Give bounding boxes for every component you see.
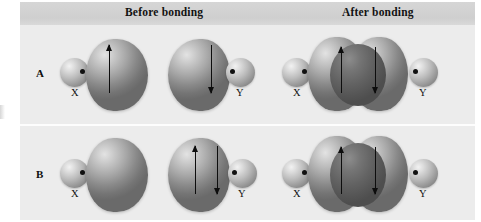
electron-dot-x-bonded [302, 69, 307, 74]
cropped-figure-number-artifact [0, 105, 5, 119]
row-label-b: B [36, 168, 43, 180]
electron-dot-x [80, 170, 85, 175]
atom-label-x-bonded: X [293, 87, 301, 98]
atom-label-y-bonded: Y [419, 188, 427, 199]
electron-dot-y-bonded [413, 69, 418, 74]
atom-label-y: Y [238, 188, 246, 199]
spin-arrow-down-y [206, 45, 216, 93]
diagram-row-b: B X Y [20, 126, 475, 220]
spin-arrow-up-y [190, 146, 200, 194]
spin-arrow-down-bond [370, 147, 380, 194]
electron-dot-y [230, 69, 235, 74]
atom-label-x: X [71, 87, 79, 98]
diagram-row-a: A X Y [20, 25, 475, 124]
column-header-after-bonding: After bonding [342, 6, 414, 18]
orbital-bonding-figure: Before bonding After bonding A X [0, 0, 481, 222]
orbital-lobe-x [86, 39, 148, 111]
electron-dot-x-bonded [302, 170, 307, 175]
spin-arrow-up-bond [336, 47, 346, 93]
orbital-lobe-x-empty [86, 138, 148, 212]
atom-label-x: X [71, 188, 79, 199]
spin-arrow-up-bond [336, 147, 346, 194]
column-header-before-bonding: Before bonding [125, 6, 203, 18]
electron-dot-y-bonded [413, 170, 418, 175]
electron-dot-y [232, 170, 237, 175]
atom-label-y: Y [236, 87, 244, 98]
column-header-band: Before bonding After bonding [20, 2, 475, 25]
spin-arrow-down-y [212, 146, 222, 194]
atom-label-x-bonded: X [293, 188, 301, 199]
orbital-lobe-y [168, 39, 230, 111]
diagram-panel: Before bonding After bonding A X [20, 2, 475, 220]
spin-arrow-up-x [104, 45, 114, 93]
spin-arrow-down-bond [370, 47, 380, 93]
electron-dot-x [80, 69, 85, 74]
atom-label-y-bonded: Y [419, 87, 427, 98]
row-label-a: A [36, 67, 44, 79]
